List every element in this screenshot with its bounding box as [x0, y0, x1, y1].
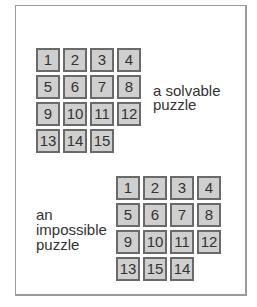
puzzle-tile: 5	[36, 75, 60, 99]
puzzle-tile: 1	[36, 48, 60, 72]
puzzle-tile: 12	[117, 102, 141, 126]
puzzle-tile: 3	[170, 176, 194, 200]
puzzle-tile: 14	[170, 257, 194, 281]
puzzle-tile: 11	[170, 230, 194, 254]
puzzle-tile: 15	[143, 257, 167, 281]
puzzle-tile: 15	[90, 129, 114, 153]
puzzle-tile: 8	[117, 75, 141, 99]
puzzle-tile: 6	[143, 203, 167, 227]
impossible-label-line2: impossible	[36, 222, 107, 237]
puzzle-tile: 5	[116, 203, 140, 227]
puzzle-tile: 6	[63, 75, 87, 99]
puzzle-tile: 11	[90, 102, 114, 126]
impossible-label-line3: puzzle	[36, 237, 79, 252]
puzzle-tile: 4	[117, 48, 141, 72]
puzzle-tile: 2	[63, 48, 87, 72]
puzzle-tile: 3	[90, 48, 114, 72]
puzzle-tile: 10	[143, 230, 167, 254]
puzzle-tile: 13	[36, 129, 60, 153]
puzzle-tile: 14	[63, 129, 87, 153]
puzzle-tile: 1	[116, 176, 140, 200]
impossible-label-line1: an	[36, 207, 53, 222]
puzzle-tile: 10	[63, 102, 87, 126]
puzzle-tile: 4	[197, 176, 221, 200]
puzzle-tile: 7	[170, 203, 194, 227]
puzzle-tile: 12	[197, 230, 221, 254]
puzzle-tile: 9	[36, 102, 60, 126]
puzzle-tile: 9	[116, 230, 140, 254]
solvable-label-line2: puzzle	[153, 97, 196, 112]
puzzle-tile: 2	[143, 176, 167, 200]
puzzle-tile: 8	[197, 203, 221, 227]
puzzle-tile: 7	[90, 75, 114, 99]
puzzle-tile: 13	[116, 257, 140, 281]
